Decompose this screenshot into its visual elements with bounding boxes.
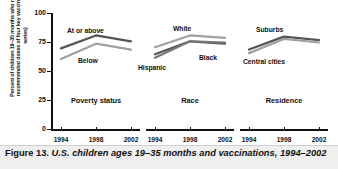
y-tick-mark-75: [47, 42, 51, 43]
series-label-hispanic: Hispanic: [138, 64, 166, 71]
panel-0-xlabel-1998: 1998: [83, 136, 109, 143]
series-label-white: White: [173, 25, 191, 32]
panel-2-xlabel-2002: 2002: [306, 136, 332, 143]
y-tick-label-50: 50: [26, 67, 46, 74]
panel-2-title: Residence: [240, 96, 328, 105]
panel-0-xlabel-2002: 2002: [118, 136, 144, 143]
panel-0-xtick-1998: [96, 127, 97, 131]
panel-race: White Black Hispanic 1994 1998 2002 Race: [146, 13, 234, 145]
panel-2-xtick-2002: [319, 127, 320, 131]
panel-2-xlabel-1994: 1994: [236, 136, 262, 143]
y-tick-mark-0: [47, 129, 51, 130]
figure-caption: Figure 13. U.S. children ages 19–35 mont…: [5, 148, 335, 159]
y-tick-label-75: 75: [26, 38, 46, 45]
panel-0-title: Poverty status: [52, 96, 140, 105]
series-label-below: Below: [78, 57, 98, 64]
y-tick-mark-25: [47, 100, 51, 101]
panel-2-xtick-1998: [284, 127, 285, 131]
panel-1-xlabel-1994: 1994: [142, 136, 168, 143]
panel-0-xlabel-1994: 1994: [48, 136, 74, 143]
panel-1-xlabel-1998: 1998: [177, 136, 203, 143]
figure-container: Percent of children 19–35 months who rec…: [0, 0, 338, 169]
y-axis-tick-labels: 100 75 50 25 0: [24, 0, 46, 145]
series-label-suburbs: Suburbs: [256, 26, 283, 33]
y-tick-label-100: 100: [26, 9, 46, 16]
panel-2-xtick-1994: [249, 127, 250, 131]
figure-caption-bar: Figure 13. U.S. children ages 19–35 mont…: [0, 145, 338, 169]
series-label-black: Black: [199, 54, 217, 61]
y-tick-label-0: 0: [26, 125, 46, 132]
panel-2-xlabel-1998: 1998: [271, 136, 297, 143]
y-tick-label-25: 25: [26, 96, 46, 103]
y-tick-mark-50: [47, 71, 51, 72]
panel-0-xtick-2002: [131, 127, 132, 131]
panel-1-title: Race: [146, 96, 234, 105]
series-label-at-or-above: At or above: [67, 27, 104, 34]
series-label-central-cities: Central cities: [243, 58, 285, 65]
panel-2-lines: [240, 13, 328, 145]
figure-caption-body: U.S. children ages 19–35 months and vacc…: [52, 148, 327, 158]
y-tick-mark-100: [47, 13, 51, 14]
panel-0-xtick-1994: [61, 127, 62, 131]
panel-1-lines: [146, 13, 234, 145]
figure-caption-label: Figure 13.: [5, 148, 49, 158]
panel-1-xlabel-2002: 2002: [212, 136, 238, 143]
panel-residence: Suburbs Central cities 1994 1998 2002 Re…: [240, 13, 328, 145]
panel-poverty-status: At or above Below 1994 1998 2002 Poverty…: [52, 13, 140, 145]
chart-plot-area: Percent of children 19–35 months who rec…: [0, 0, 338, 145]
panel-1-xtick-1994: [155, 127, 156, 131]
panel-1-xtick-2002: [225, 127, 226, 131]
panel-1-xtick-1998: [190, 127, 191, 131]
